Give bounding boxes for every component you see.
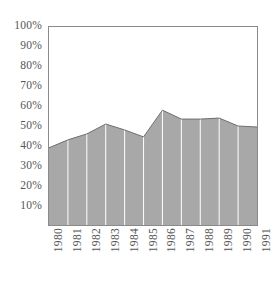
y-tick-label: 50% <box>20 120 42 132</box>
y-tick-label: 70% <box>20 80 42 92</box>
x-tick-label: 1989 <box>223 228 235 252</box>
y-tick-label: 40% <box>20 140 42 152</box>
x-tick-label: 1988 <box>204 228 216 252</box>
plot-svg <box>49 27 257 225</box>
y-tick-label: 90% <box>20 40 42 52</box>
plot-area <box>48 26 258 226</box>
x-tick-label: 1991 <box>261 228 272 252</box>
x-tick-label: 1984 <box>129 228 141 252</box>
y-tick-label: 80% <box>20 60 42 72</box>
x-tick-label: 1987 <box>185 228 197 252</box>
x-tick-label: 1980 <box>53 228 65 252</box>
y-tick-label: 20% <box>20 180 42 192</box>
x-tick-label: 1983 <box>110 228 122 252</box>
x-tick-label: 1982 <box>91 228 103 252</box>
y-tick-label: 10% <box>20 200 42 212</box>
x-axis: 1980198119821983198419851986198719881989… <box>48 228 260 283</box>
y-tick-label: 30% <box>20 160 42 172</box>
area-chart-figure: 10%20%30%40%50%60%70%80%90%100% 19801981… <box>0 0 272 283</box>
y-tick-label: 60% <box>20 100 42 112</box>
y-tick-label: 100% <box>14 20 42 32</box>
y-axis: 10%20%30%40%50%60%70%80%90%100% <box>0 0 45 283</box>
x-tick-label: 1990 <box>242 228 254 252</box>
area-series-group <box>49 110 257 225</box>
x-tick-label: 1985 <box>148 228 160 252</box>
x-tick-label: 1986 <box>166 228 178 252</box>
x-tick-label: 1981 <box>72 228 84 252</box>
area-series-fill <box>49 110 257 225</box>
